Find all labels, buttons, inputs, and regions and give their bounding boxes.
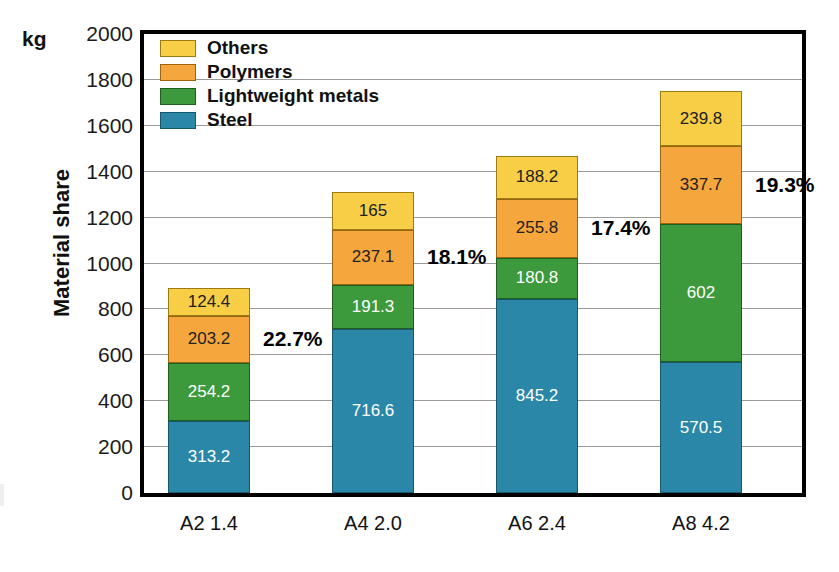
y-axis-tick-label: 1800 — [55, 68, 133, 92]
bar-a8-4-2[interactable]: 239.8337.7602570.5 — [660, 91, 742, 493]
x-axis-label: A4 2.0 — [303, 512, 443, 535]
percent-annotation: 18.1% — [427, 245, 487, 269]
x-axis-label: A8 4.2 — [631, 512, 771, 535]
legend-swatch-steel — [160, 112, 196, 129]
percent-annotation: 17.4% — [591, 216, 651, 240]
bar-segment-value: 237.1 — [333, 247, 413, 267]
bar-segment-value: 255.8 — [497, 218, 577, 238]
y-axis-tick-label: 400 — [55, 389, 133, 413]
bar-segment-value: 165 — [333, 201, 413, 221]
bar-segment-value: 239.8 — [661, 109, 741, 129]
bar-segment-metals[interactable]: 254.2 — [168, 363, 250, 421]
legend-label: Polymers — [207, 61, 293, 83]
bar-segment-steel[interactable]: 716.6 — [332, 329, 414, 493]
chart-legend: OthersPolymersLightweight metalsSteel — [160, 36, 379, 132]
bar-segment-value: 188.2 — [497, 167, 577, 187]
bar-segment-polymers[interactable]: 337.7 — [660, 146, 742, 224]
legend-item-others[interactable]: Others — [160, 36, 379, 60]
legend-label: Others — [207, 37, 268, 59]
bar-segment-value: 602 — [661, 283, 741, 303]
bar-segment-others[interactable]: 239.8 — [660, 91, 742, 146]
bar-a6-2-4[interactable]: 188.2255.8180.8845.2 — [496, 156, 578, 493]
percent-annotation: 19.3% — [755, 173, 815, 197]
bar-segment-steel[interactable]: 845.2 — [496, 299, 578, 493]
y-axis-tick-label: 1600 — [55, 114, 133, 138]
bar-segment-metals[interactable]: 602 — [660, 224, 742, 362]
bar-segment-polymers[interactable]: 203.2 — [168, 316, 250, 363]
bar-segment-value: 845.2 — [497, 386, 577, 406]
legend-item-metals[interactable]: Lightweight metals — [160, 84, 379, 108]
y-axis-tick-label: 1000 — [55, 252, 133, 276]
y-axis-tick-label: 800 — [55, 297, 133, 321]
legend-swatch-metals — [160, 88, 196, 105]
x-axis-label: A6 2.4 — [467, 512, 607, 535]
legend-swatch-polymers — [160, 64, 196, 81]
legend-label: Lightweight metals — [207, 85, 379, 107]
legend-item-steel[interactable]: Steel — [160, 108, 379, 132]
bar-a2-1-4[interactable]: 124.4203.2254.2313.2 — [168, 288, 250, 493]
bar-segment-value: 570.5 — [661, 418, 741, 438]
percent-annotation: 22.7% — [263, 327, 323, 351]
y-axis-tick-label: 1200 — [55, 206, 133, 230]
y-axis-tick-labels: 2000180016001400120010008006004002000 — [55, 30, 133, 497]
y-axis-tick-label: 200 — [55, 435, 133, 459]
bar-segment-value: 180.8 — [497, 268, 577, 288]
legend-swatch-others — [160, 40, 196, 57]
bar-segment-others[interactable]: 124.4 — [168, 288, 250, 317]
scan-artifact — [0, 484, 4, 506]
legend-item-polymers[interactable]: Polymers — [160, 60, 379, 84]
y-axis-tick-label: 1400 — [55, 160, 133, 184]
y-axis-tick-label: 600 — [55, 343, 133, 367]
bar-segment-polymers[interactable]: 237.1 — [332, 230, 414, 284]
x-axis-label: A2 1.4 — [139, 512, 279, 535]
bar-segment-value: 203.2 — [169, 329, 249, 349]
bar-segment-steel[interactable]: 570.5 — [660, 362, 742, 493]
bar-segment-metals[interactable]: 180.8 — [496, 258, 578, 299]
legend-label: Steel — [207, 109, 252, 131]
bar-segment-others[interactable]: 165 — [332, 192, 414, 230]
bar-segment-value: 716.6 — [333, 401, 413, 421]
bar-segment-value: 337.7 — [661, 175, 741, 195]
bar-a4-2-0[interactable]: 165237.1191.3716.6 — [332, 192, 414, 493]
bar-segment-metals[interactable]: 191.3 — [332, 285, 414, 329]
bar-segment-value: 124.4 — [169, 292, 249, 312]
bar-segment-value: 313.2 — [169, 447, 249, 467]
bar-segment-polymers[interactable]: 255.8 — [496, 199, 578, 258]
bar-segment-steel[interactable]: 313.2 — [168, 421, 250, 493]
y-axis-unit-label: kg — [22, 27, 47, 51]
bar-segment-others[interactable]: 188.2 — [496, 156, 578, 199]
y-axis-tick-label: 0 — [55, 481, 133, 505]
y-axis-tick-label: 2000 — [55, 22, 133, 46]
bar-segment-value: 191.3 — [333, 297, 413, 317]
bar-segment-value: 254.2 — [169, 382, 249, 402]
x-axis-category-labels: A2 1.4A4 2.0A6 2.4A8 4.2 — [140, 512, 806, 542]
